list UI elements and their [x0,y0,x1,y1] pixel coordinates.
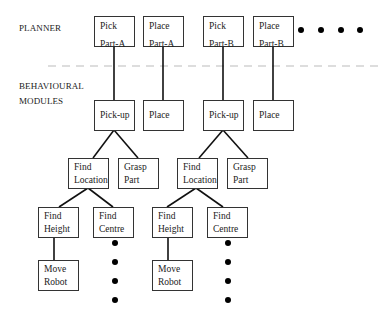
subtask-line1: Find [74,161,108,174]
continuation-dot-icon [112,278,118,284]
subtask-line2: Part [233,174,267,187]
subtask-line1: Move [44,263,78,276]
continuation-dot-icon [112,297,118,303]
behaviour-label: Place [149,109,170,122]
subtask-line1: Grasp [233,161,267,174]
continuation-dot-icon [318,27,324,33]
task-verb: Place [259,20,293,33]
subtask-find-height-a[interactable]: Find Height [38,207,79,238]
continuation-dot-icon [225,297,231,303]
task-verb: Pick [209,20,243,33]
edge-findloc-a-centre [88,188,113,207]
subtask-grasp-part-a[interactable]: Grasp Part [118,158,159,189]
behaviour-label: Pick-up [100,109,130,122]
subtask-line2: Location [183,174,217,187]
subtask-line2: Centre [213,223,247,236]
behaviour-place-a[interactable]: Place [143,100,184,131]
edge-pickup-b-grasp [223,130,248,158]
subtask-find-location-a[interactable]: Find Location [68,158,109,189]
task-object: Part-A [100,38,134,51]
continuation-dot-icon [338,27,344,33]
planner-task-place-part-a[interactable]: Place Part-A [143,16,184,47]
task-verb: Place [149,20,183,33]
edge-findloc-b-height [167,188,196,207]
planner-task-pick-part-a[interactable]: Pick Part-A [94,16,135,47]
subtask-line2: Location [74,174,108,187]
continuation-dot-icon [225,259,231,265]
subtask-line1: Move [158,263,192,276]
planner-task-pick-part-b[interactable]: Pick Part-B [203,16,244,47]
continuation-dot-icon [357,27,363,33]
subtask-move-robot-b[interactable]: Move Robot [152,260,193,291]
behavioural-label-line1: BEHAVIOURAL [19,81,84,91]
behaviour-pick-up-a[interactable]: Pick-up [94,100,135,131]
task-object: Part-B [209,38,243,51]
edge-findloc-a-height [59,188,88,207]
subtask-line1: Find [213,210,247,223]
behaviour-label: Pick-up [209,109,239,122]
subtask-grasp-part-b[interactable]: Grasp Part [227,158,268,189]
behaviour-label: Place [259,109,280,122]
continuation-dot-icon [225,240,231,246]
continuation-dot-icon [225,278,231,284]
behaviour-place-b[interactable]: Place [253,100,294,131]
subtask-line1: Grasp [124,161,158,174]
behavioural-label-line2: MODULES [19,96,63,106]
continuation-dot-icon [112,259,118,265]
subtask-find-location-b[interactable]: Find Location [177,158,218,189]
continuation-dot-icon [298,27,304,33]
subtask-line1: Find [183,161,217,174]
subtask-line1: Find [44,210,78,223]
subtask-line2: Height [158,223,192,236]
subtask-move-robot-a[interactable]: Move Robot [38,260,79,291]
planner-label: PLANNER [19,23,61,33]
subtask-line1: Find [158,210,192,223]
subtask-line2: Height [44,223,78,236]
task-verb: Pick [100,20,134,33]
edge-findloc-b-centre [196,188,223,207]
subtask-line2: Centre [99,223,133,236]
subtask-find-height-b[interactable]: Find Height [152,207,193,238]
planner-task-place-part-b[interactable]: Place Part-B [253,16,294,47]
subtask-line2: Part [124,174,158,187]
subtask-line2: Robot [44,276,78,289]
edge-pickup-b-findloc [199,130,223,158]
subtask-line1: Find [99,210,133,223]
edge-pickup-a-findloc [93,130,114,158]
subtask-find-centre-a[interactable]: Find Centre [93,207,134,238]
behaviour-pick-up-b[interactable]: Pick-up [203,100,244,131]
task-object: Part-B [259,38,293,51]
subtask-find-centre-b[interactable]: Find Centre [207,207,248,238]
continuation-dot-icon [112,240,118,246]
subtask-line2: Robot [158,276,192,289]
edge-pickup-a-grasp [114,130,138,158]
task-object: Part-A [149,38,183,51]
